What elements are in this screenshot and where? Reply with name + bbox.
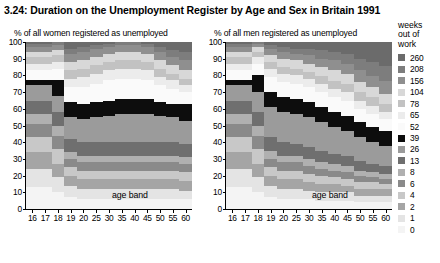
stack-segment <box>379 131 392 146</box>
y-axis-tick-label: 100 <box>9 38 22 46</box>
stack-segment <box>341 101 354 116</box>
legend-item[interactable]: 104 <box>394 87 440 98</box>
stack-segment <box>128 114 141 142</box>
stack-segment <box>52 69 65 81</box>
stack-segment <box>52 149 65 164</box>
y-axis-tick-label: 80 <box>13 71 22 79</box>
legend-item-label: 39 <box>410 133 419 143</box>
stack-segment <box>277 162 290 170</box>
y-axis-tick-label: 10 <box>13 188 22 196</box>
stack-segment <box>179 92 192 104</box>
stack-segment <box>328 97 341 112</box>
stack-segment <box>103 199 116 209</box>
stack-segment <box>64 62 77 70</box>
legend-item[interactable]: 39 <box>394 132 440 143</box>
stack-segment <box>366 182 379 189</box>
stack-segment <box>366 42 379 62</box>
stack-segment <box>341 64 354 74</box>
legend-item[interactable]: 78 <box>394 98 440 109</box>
stack-segment <box>77 171 90 179</box>
stack-segment <box>77 77 90 87</box>
legend-item[interactable]: 1 <box>394 212 440 223</box>
stack-column <box>154 42 167 209</box>
stack-segment <box>315 50 328 58</box>
legend-item-label: 78 <box>410 99 419 109</box>
stack-segment <box>239 124 252 137</box>
y-axis-tick <box>223 192 226 193</box>
y-axis-tick-label: 0 <box>218 205 222 213</box>
stack-column <box>354 42 367 209</box>
legend-item[interactable]: 4 <box>394 189 440 200</box>
stack-segment <box>90 65 103 73</box>
legend-item-label: 1 <box>410 213 414 223</box>
stack-segment <box>52 55 65 62</box>
legend-item[interactable]: 8 <box>394 167 440 178</box>
stack-segment <box>328 70 341 80</box>
stack-segment <box>303 159 316 166</box>
stack-segment <box>341 74 354 84</box>
stack-segment <box>154 199 167 209</box>
x-axis-tick-label: 60 <box>381 214 390 223</box>
stack-segment <box>26 85 39 100</box>
stack-segment <box>77 189 90 199</box>
stack-column <box>290 42 303 209</box>
legend-item[interactable]: 260 <box>394 52 440 63</box>
x-axis-labels-women: 16171819202530354045505560 <box>26 214 192 225</box>
stack-segment <box>77 60 90 68</box>
x-axis-tick-label: 17 <box>241 214 250 223</box>
stack-segment <box>154 85 167 102</box>
legend-item[interactable]: 0 <box>394 224 440 235</box>
stack-segment <box>128 142 141 155</box>
stack-segment <box>64 176 77 186</box>
x-axis-tick-label: 35 <box>317 214 326 223</box>
stack-segment <box>239 70 252 80</box>
legend-swatch-icon <box>398 100 405 107</box>
stack-segment <box>52 112 65 125</box>
stack-segment <box>166 142 179 155</box>
x-axis-tick-label: 45 <box>343 214 352 223</box>
stack-segment <box>366 97 379 105</box>
stack-segment <box>239 57 252 64</box>
y-axis-tick-label: 50 <box>13 121 22 129</box>
stack-segment <box>277 112 290 142</box>
stack-segment <box>239 137 252 152</box>
stack-segment <box>379 112 392 119</box>
stack-segment <box>103 54 116 62</box>
stack-segment <box>277 82 290 97</box>
legend-item[interactable]: 52 <box>394 121 440 132</box>
stack-segment <box>264 176 277 186</box>
stack-segment <box>52 96 65 113</box>
stack-segment <box>315 162 328 169</box>
legend-item[interactable]: 208 <box>394 64 440 75</box>
legend-item[interactable]: 26 <box>394 144 440 155</box>
legend-item[interactable]: 2 <box>394 201 440 212</box>
stack-column <box>366 42 379 209</box>
stack-segment <box>141 99 154 114</box>
legend-item[interactable]: 13 <box>394 155 440 166</box>
x-axis-tick-label: 19 <box>266 214 275 223</box>
legend-swatch-icon <box>398 77 405 84</box>
stack-segment <box>315 67 328 75</box>
stack-segment <box>179 52 192 60</box>
stack-column <box>328 42 341 209</box>
legend-item[interactable]: 65 <box>394 109 440 120</box>
stack-segment <box>226 64 239 71</box>
stack-segment <box>303 64 316 72</box>
legend-item[interactable]: 6 <box>394 178 440 189</box>
stack-segment <box>239 187 252 209</box>
stack-segment <box>315 169 328 176</box>
stack-segment <box>52 164 65 177</box>
stack-segment <box>64 79 77 87</box>
stack-segment <box>252 64 265 76</box>
stack-segment <box>166 156 179 163</box>
x-axis-tick-label: 50 <box>356 214 365 223</box>
stack-column <box>128 42 141 209</box>
y-axis-tick <box>23 192 26 193</box>
stack-segment <box>264 167 277 175</box>
stack-segment <box>115 156 128 163</box>
y-axis-tick-label: 100 <box>209 38 222 46</box>
x-axis-tick-label: 35 <box>117 214 126 223</box>
stack-segment <box>166 117 179 142</box>
stack-segment <box>328 164 341 171</box>
legend-item[interactable]: 156 <box>394 75 440 86</box>
